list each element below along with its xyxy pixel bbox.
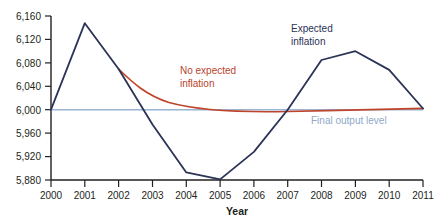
x-tick-label-2000: 2000 [40, 190, 63, 201]
annotation-no-expected-inflation-line1: No expected [180, 65, 236, 76]
x-axis-tick-labels: 2000 2001 2002 2003 2004 2005 2006 2007 … [40, 190, 434, 201]
annotation-expected-inflation: Expected inflation [291, 23, 333, 47]
chart-axes [45, 16, 423, 187]
annotation-expected-inflation-line2: inflation [291, 36, 325, 47]
annotation-expected-inflation-line1: Expected [291, 23, 333, 34]
annotation-no-expected-inflation: No expected inflation [180, 65, 236, 89]
annotation-no-expected-inflation-line2: inflation [180, 78, 214, 89]
x-tick-label-2002: 2002 [107, 190, 130, 201]
annotation-final-output-level: Final output level [311, 115, 387, 126]
x-tick-label-2003: 2003 [141, 190, 164, 201]
y-tick-label-6120: 6,120 [16, 34, 41, 45]
chart-canvas: 6,160 6,120 6,080 6,040 6,000 5,960 5,92… [0, 0, 438, 224]
x-tick-label-2005: 2005 [209, 190, 232, 201]
y-tick-label-5880: 5,880 [16, 175, 41, 186]
x-tick-label-2007: 2007 [277, 190, 300, 201]
x-tick-label-2001: 2001 [74, 190, 97, 201]
x-tick-label-2011: 2011 [412, 190, 434, 201]
x-tick-label-2006: 2006 [243, 190, 266, 201]
y-tick-label-6160: 6,160 [16, 11, 41, 22]
y-axis-tick-labels: 6,160 6,120 6,080 6,040 6,000 5,960 5,92… [16, 11, 41, 186]
y-tick-label-6040: 6,040 [16, 81, 41, 92]
x-tick-label-2008: 2008 [310, 190, 333, 201]
x-tick-label-2004: 2004 [175, 190, 198, 201]
y-tick-label-6080: 6,080 [16, 58, 41, 69]
inflation-output-chart: 6,160 6,120 6,080 6,040 6,000 5,960 5,92… [0, 0, 438, 224]
x-axis-ticks [51, 180, 423, 187]
x-tick-label-2010: 2010 [378, 190, 401, 201]
y-tick-label-5960: 5,960 [16, 128, 41, 139]
x-axis-title: Year [226, 205, 248, 217]
series-no-expected-inflation-line [119, 69, 423, 112]
y-tick-label-5920: 5,920 [16, 151, 41, 162]
y-tick-label-6000: 6,000 [16, 105, 41, 116]
y-axis-ticks [45, 16, 51, 180]
series-expected-inflation-line [51, 23, 423, 179]
x-tick-label-2009: 2009 [344, 190, 367, 201]
